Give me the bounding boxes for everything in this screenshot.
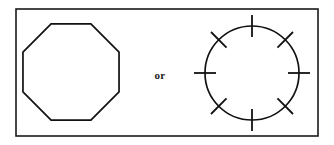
outer-frame-rectangle xyxy=(16,9,318,136)
figure-container: or xyxy=(0,0,334,145)
or-label: or xyxy=(155,69,166,81)
figure-svg: or xyxy=(0,0,334,145)
